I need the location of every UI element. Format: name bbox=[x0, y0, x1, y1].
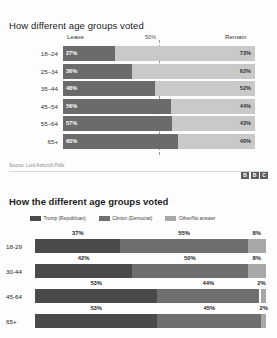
bbc-letter-3: C bbox=[260, 172, 268, 179]
chart2-segment-clinton bbox=[132, 264, 248, 278]
chart1-row: 25–3436%62% bbox=[0, 64, 277, 80]
chart2-segment-other bbox=[261, 314, 266, 328]
chart1-row-label: 65+ bbox=[18, 138, 58, 145]
chart1-bar-track: 56%44% bbox=[63, 99, 255, 114]
footer-divider bbox=[9, 171, 268, 172]
header-label-remain: Remain bbox=[225, 33, 246, 40]
chart1-value-remain: 52% bbox=[240, 85, 251, 91]
chart2-value-clinton: 45% bbox=[204, 305, 216, 311]
chart2-bar-track bbox=[35, 289, 266, 303]
chart2-rows: 18-2937%55%8%30-4442%50%8%45-6453%44%2%6… bbox=[0, 230, 277, 330]
chart1-row-label: 18–24 bbox=[18, 50, 58, 57]
chart1-bar-track: 27%73% bbox=[63, 46, 255, 61]
chart2-segment-trump bbox=[35, 264, 132, 278]
chart1-row: 18–2427%73% bbox=[0, 46, 277, 62]
legend-swatch-icon bbox=[165, 216, 176, 221]
chart1-bar-track: 57%43% bbox=[63, 116, 255, 131]
chart1-segment-leave bbox=[63, 116, 172, 131]
chart2-row: 65+53%45%2% bbox=[0, 305, 277, 330]
bbc-letter-2: B bbox=[251, 172, 259, 179]
bbc-letter-1: B bbox=[241, 172, 249, 179]
chart2-segment-trump bbox=[35, 314, 157, 328]
chart1-segment-remain bbox=[136, 64, 255, 79]
chart2-segment-clinton bbox=[120, 239, 247, 253]
legend-item[interactable]: Clinton (Democrat) bbox=[99, 216, 153, 221]
chart2-value-other: 8% bbox=[253, 255, 261, 261]
chart1-row: 65+60%40% bbox=[0, 134, 277, 150]
header-label-leave: Leave bbox=[67, 33, 84, 40]
chart1-row-label: 55–64 bbox=[18, 120, 58, 127]
legend-item[interactable]: Trump (Republican) bbox=[30, 216, 86, 221]
infographic-page: How different age groups voted Leave 50%… bbox=[0, 0, 277, 338]
chart1-rows: 18–2427%73%25–3436%62%35–4448%52%45–5456… bbox=[0, 46, 277, 151]
chart2-value-other: 2% bbox=[259, 305, 267, 311]
chart2-segment-trump bbox=[35, 239, 120, 253]
chart1-segment-leave bbox=[63, 134, 178, 149]
chart2-segment-other bbox=[248, 264, 266, 278]
legend-swatch-icon bbox=[30, 216, 41, 221]
chart1-value-leave: 57% bbox=[66, 120, 77, 126]
chart1-value-leave: 36% bbox=[66, 68, 77, 74]
chart2-row-label: 45-64 bbox=[6, 293, 22, 300]
chart2-segment-clinton bbox=[157, 314, 261, 328]
chart2-value-clinton: 44% bbox=[202, 280, 214, 286]
chart2-segment-trump bbox=[35, 289, 157, 303]
chart2-value-trump: 53% bbox=[90, 280, 102, 286]
chart1-value-leave: 27% bbox=[66, 50, 77, 56]
chart1-row-label: 25–34 bbox=[18, 68, 58, 75]
chart2-bar-track bbox=[35, 314, 266, 328]
header-label-midpoint: 50% bbox=[145, 34, 156, 40]
chart1-row: 45–5456%44% bbox=[0, 99, 277, 115]
chart2-bar-track bbox=[35, 264, 266, 278]
chart2-bar-track bbox=[35, 239, 266, 253]
legend-label: Clinton (Democrat) bbox=[112, 216, 152, 221]
chart2-segment-other bbox=[261, 289, 266, 303]
chart2-value-other: 8% bbox=[253, 230, 261, 236]
chart2-value-clinton: 50% bbox=[184, 255, 196, 261]
chart1-segment-leave bbox=[63, 99, 171, 114]
chart1-value-remain: 62% bbox=[240, 68, 251, 74]
chart2-row: 30-4442%50%8% bbox=[0, 255, 277, 280]
chart1-value-remain: 44% bbox=[240, 103, 251, 109]
chart1-title: How different age groups voted bbox=[9, 20, 144, 31]
chart1-header-row: Leave 50% Remain bbox=[0, 33, 277, 45]
chart1-bar-track: 60%40% bbox=[63, 134, 255, 149]
chart1-value-leave: 48% bbox=[66, 85, 77, 91]
chart1-value-leave: 60% bbox=[66, 138, 77, 144]
chart2-value-trump: 37% bbox=[72, 230, 84, 236]
chart1-value-remain: 43% bbox=[240, 120, 251, 126]
chart1-segment-remain bbox=[115, 46, 255, 61]
chart1-row: 55–6457%43% bbox=[0, 116, 277, 132]
chart1-bar-track: 36%62% bbox=[63, 64, 255, 79]
chart2-segment-other bbox=[248, 239, 266, 253]
chart2-row-label: 65+ bbox=[6, 318, 17, 325]
legend-swatch-icon bbox=[99, 216, 110, 221]
chart1-value-remain: 40% bbox=[240, 138, 251, 144]
chart2-value-clinton: 55% bbox=[178, 230, 190, 236]
bbc-logo: B B C bbox=[241, 172, 268, 179]
chart2-segment-clinton bbox=[157, 289, 259, 303]
chart2-value-trump: 42% bbox=[78, 255, 90, 261]
legend-item[interactable]: Other/No answer bbox=[165, 216, 215, 221]
chart2-row: 18-2937%55%8% bbox=[0, 230, 277, 255]
legend-label: Trump (Republican) bbox=[44, 216, 86, 221]
chart2-value-trump: 53% bbox=[90, 305, 102, 311]
chart2-row-label: 18-29 bbox=[6, 243, 22, 250]
legend-label: Other/No answer bbox=[179, 216, 215, 221]
chart1-value-remain: 73% bbox=[240, 50, 251, 56]
chart1-row-label: 35–44 bbox=[18, 85, 58, 92]
chart1-footer: Source: Lord Ashcroft Polls B B C bbox=[0, 163, 277, 187]
chart2-row: 45-6453%44%2% bbox=[0, 280, 277, 305]
chart2-legend: Trump (Republican)Clinton (Democrat)Othe… bbox=[30, 216, 215, 221]
chart2-row-label: 30-44 bbox=[6, 268, 22, 275]
chart1-bar-track: 48%52% bbox=[63, 81, 255, 96]
chart1-row-label: 45–54 bbox=[18, 103, 58, 110]
chart2-title: How the different age groups voted bbox=[9, 196, 168, 207]
chart1-row: 35–4448%52% bbox=[0, 81, 277, 97]
chart1-value-leave: 56% bbox=[66, 103, 77, 109]
chart2-value-other: 2% bbox=[257, 280, 265, 286]
chart1-source: Source: Lord Ashcroft Polls bbox=[9, 163, 64, 168]
